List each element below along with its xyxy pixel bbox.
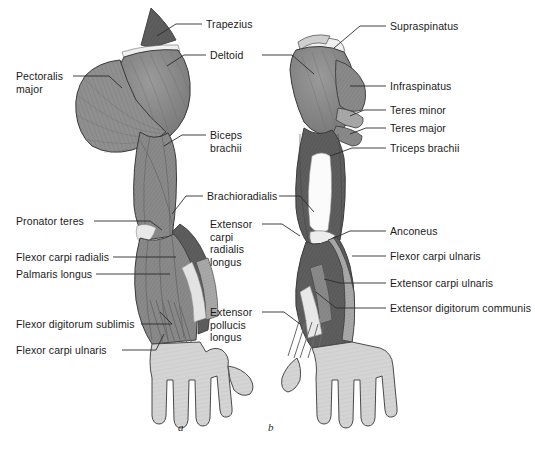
label-extensor-carpi-radialis-longus: Extensorcarpiradialislongus — [210, 218, 252, 268]
label-biceps-brachii: Bicepsbrachii — [210, 129, 242, 154]
label-anconeus: Anconeus — [390, 225, 438, 238]
label-teres-minor: Teres minor — [390, 104, 446, 117]
label-deltoid: Deltoid — [210, 49, 243, 62]
label-pectoralis-major-line1: Pectoralis — [16, 70, 63, 82]
label-ecrl-line3: radialis — [210, 243, 244, 255]
label-ecrl-line2: carpi — [210, 231, 233, 243]
label-biceps-brachii-line2: brachii — [210, 142, 242, 154]
leader-epl — [262, 312, 300, 324]
label-epl-line3: longus — [210, 331, 242, 343]
label-infraspinatus: Infraspinatus — [390, 80, 451, 93]
label-flexor-carpi-ulnaris-posterior: Flexor carpi ulnaris — [390, 250, 481, 263]
hand-a — [150, 342, 232, 428]
label-supraspinatus: Supraspinatus — [390, 20, 458, 33]
label-pronator-teres: Pronator teres — [16, 215, 84, 228]
caption-figure-b: b — [268, 421, 274, 433]
label-extensor-pollucis-longus: Extensorpollucislongus — [210, 306, 252, 344]
triceps-tendon — [308, 153, 331, 232]
label-trapezius: Trapezius — [206, 18, 253, 31]
label-extensor-digitorum-communis: Extensor digitorum communis — [390, 302, 531, 315]
label-teres-major: Teres major — [390, 122, 446, 135]
leader-ecrl — [262, 224, 300, 236]
label-flexor-digitorum-sublimis: Flexor digitorum sublimis — [16, 318, 135, 331]
label-biceps-brachii-line1: Biceps — [210, 129, 242, 141]
label-palmaris-longus: Palmaris longus — [16, 268, 92, 281]
label-pectoralis-major: Pectoralismajor — [16, 70, 63, 95]
label-epl-line2: pollucis — [210, 319, 246, 331]
label-extensor-carpi-ulnaris: Extensor carpi ulnaris — [390, 277, 493, 290]
label-flexor-carpi-ulnaris-anterior: Flexor carpi ulnaris — [16, 344, 107, 357]
thumb-a — [228, 366, 253, 395]
hand-b — [312, 342, 397, 428]
label-ecrl-line4: longus — [210, 256, 242, 268]
thumb-b — [282, 358, 301, 392]
label-flexor-carpi-radialis: Flexor carpi radialis — [16, 251, 109, 264]
caption-figure-a: a — [178, 421, 184, 433]
leader-brachioradialis-left — [172, 196, 203, 214]
label-brachioradialis: Brachioradialis — [207, 190, 277, 203]
label-pectoralis-major-line2: major — [16, 83, 43, 95]
label-ecrl-line1: Extensor — [210, 218, 252, 230]
label-epl-line1: Extensor — [210, 306, 252, 318]
label-triceps-brachii: Triceps brachii — [390, 142, 459, 155]
